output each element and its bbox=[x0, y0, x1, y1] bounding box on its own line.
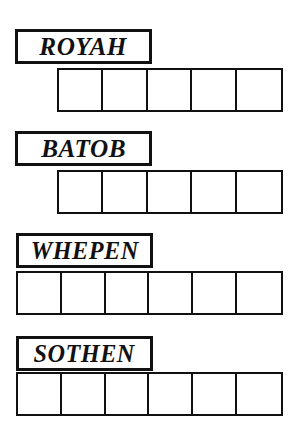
answer-cell[interactable] bbox=[18, 273, 62, 313]
clue-word-label: BATOB bbox=[41, 136, 126, 162]
clue-word-box: ROYAH bbox=[15, 29, 152, 64]
answer-grid bbox=[16, 372, 283, 416]
answer-cell[interactable] bbox=[237, 70, 281, 110]
answer-cell[interactable] bbox=[148, 70, 192, 110]
clue-word-box: SOTHEN bbox=[16, 336, 153, 371]
answer-cell[interactable] bbox=[106, 374, 150, 414]
answer-cell[interactable] bbox=[62, 273, 106, 313]
answer-grid bbox=[57, 68, 283, 112]
answer-cell[interactable] bbox=[192, 70, 236, 110]
answer-cell[interactable] bbox=[192, 172, 236, 212]
answer-cell[interactable] bbox=[59, 70, 103, 110]
answer-cell[interactable] bbox=[18, 374, 62, 414]
clue-word-box: WHEPEN bbox=[16, 233, 153, 268]
answer-cell[interactable] bbox=[103, 70, 147, 110]
clue-word-box: BATOB bbox=[15, 131, 152, 166]
answer-grid bbox=[16, 271, 283, 315]
answer-cell[interactable] bbox=[237, 374, 281, 414]
clue-word-label: ROYAH bbox=[40, 34, 127, 60]
answer-cell[interactable] bbox=[59, 172, 103, 212]
puzzle-sheet: ROYAHBATOBWHEPENSOTHEN bbox=[0, 0, 292, 423]
answer-cell[interactable] bbox=[193, 273, 237, 313]
answer-cell[interactable] bbox=[237, 172, 281, 212]
answer-cell[interactable] bbox=[149, 273, 193, 313]
answer-cell[interactable] bbox=[149, 374, 193, 414]
answer-cell[interactable] bbox=[106, 273, 150, 313]
answer-grid bbox=[57, 170, 283, 214]
answer-cell[interactable] bbox=[193, 374, 237, 414]
clue-word-label: SOTHEN bbox=[34, 341, 135, 366]
clue-word-label: WHEPEN bbox=[30, 238, 138, 263]
answer-cell[interactable] bbox=[237, 273, 281, 313]
answer-cell[interactable] bbox=[148, 172, 192, 212]
answer-cell[interactable] bbox=[103, 172, 147, 212]
answer-cell[interactable] bbox=[62, 374, 106, 414]
